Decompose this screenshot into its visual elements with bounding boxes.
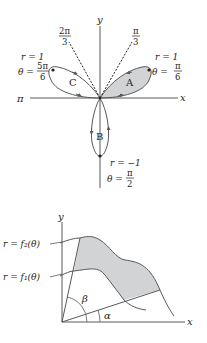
point-c-tip: [51, 68, 54, 71]
pi-over-3-den: 3: [133, 37, 138, 47]
point-a-tip: [147, 68, 150, 71]
loop-a-theta-prefix: θ =: [152, 67, 168, 77]
beta-label: β: [81, 293, 88, 304]
ray-2pi-over-3: [69, 42, 100, 98]
loop-b-label: B: [96, 131, 103, 142]
ray-beta: [62, 238, 80, 322]
loop-c-theta-den: 6: [40, 72, 45, 82]
loop-c-label: C: [69, 77, 77, 88]
ray-alpha: [62, 290, 160, 322]
x-axis-label: x: [180, 92, 186, 103]
alpha-label: α: [104, 310, 111, 321]
loop-a-theta-den: 6: [175, 72, 180, 82]
loop-b-theta-prefix: θ =: [107, 174, 123, 184]
two-pi-over-3-num: 2π: [59, 26, 70, 36]
rose-graph: [30, 26, 178, 188]
y-axis-label-bottom: y: [57, 211, 64, 222]
loop-b-r-value: r = −1: [110, 158, 141, 168]
loop-a-label: A: [125, 77, 134, 88]
pi-label: π: [16, 93, 24, 104]
loop-c-theta-prefix: θ =: [18, 67, 34, 77]
curve-f2-label: r = f₂(θ): [3, 239, 40, 249]
y-axis-label: y: [96, 14, 103, 25]
loop-b-theta-num: π: [127, 168, 133, 178]
origin-point: [99, 97, 101, 99]
loop-b-theta-den: 2: [127, 179, 132, 189]
arrow-icon: [72, 72, 76, 74]
curve-f1-label: r = f₁(θ): [3, 272, 40, 282]
x-axis-label-bottom: x: [187, 316, 193, 327]
loop-c-theta-num: 5π: [37, 61, 48, 71]
diagram-canvas: y x π 2π 3 π 3 A B C r = 1 θ = π 6 r = 1…: [0, 0, 207, 343]
point-b-tip: [98, 154, 101, 157]
polar-region-graph: [50, 222, 185, 322]
angle-arc-alpha: [98, 310, 100, 322]
two-pi-over-3-den: 3: [62, 37, 67, 47]
loop-a-theta-num: π: [175, 61, 181, 71]
pi-over-3-num: π: [133, 26, 139, 36]
